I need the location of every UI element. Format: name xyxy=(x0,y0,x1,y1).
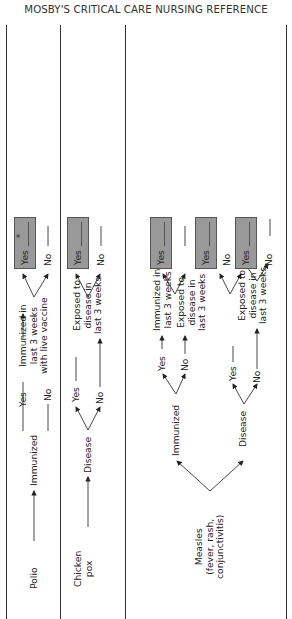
no-label: No xyxy=(95,392,106,405)
branch-label: Immunized xyxy=(29,435,40,486)
no-label: No xyxy=(252,371,263,384)
yes-label: Yes xyxy=(157,356,168,371)
no-label: No xyxy=(222,254,233,267)
disease-label-polio: Polio xyxy=(29,567,40,589)
shaded-answer-box: Yes * xyxy=(14,217,36,269)
disease-label-chicken-pox: Chicken pox xyxy=(73,551,94,587)
question-line: Immunized in xyxy=(152,269,163,331)
yes-label: Yes xyxy=(18,392,29,407)
question-line: last 3 weeks xyxy=(163,269,174,331)
shaded-answer-box: Yes xyxy=(67,217,89,269)
shaded-answer-box: Yes xyxy=(150,217,172,269)
question-line: last 3 weeks xyxy=(258,267,269,324)
branch-label: Disease xyxy=(83,437,94,473)
question-line: Immunized in xyxy=(18,297,29,374)
question-line: last 3 weeks xyxy=(93,277,104,334)
asterisk-mark: * xyxy=(16,234,27,238)
yes-label: Yes xyxy=(201,250,212,265)
question-line: Exposed to xyxy=(237,267,248,324)
question-line: Exposed to xyxy=(176,274,187,331)
question-text: Exposed to disease in last 3 weeks xyxy=(176,274,208,331)
question-line: last 3 weeks xyxy=(197,274,208,331)
no-label: No xyxy=(43,254,54,267)
disease-label-measles: Measles (fever, rash, conjunctivitis) xyxy=(194,515,226,579)
question-text: Exposed to disease in last 3 weeks xyxy=(72,277,104,334)
yes-label: Yes xyxy=(20,250,31,265)
disease-line: conjunctivitis) xyxy=(215,515,226,579)
branch-label: Immunized xyxy=(171,405,182,456)
shaded-answer-box: Yes xyxy=(235,217,257,269)
yes-label: Yes xyxy=(71,387,82,402)
question-text: Immunized in last 3 weeks xyxy=(152,269,173,331)
page-header: MOSBY'S CRITICAL CARE NURSING REFERENCE xyxy=(0,4,292,15)
no-label: No xyxy=(96,254,107,267)
question-text: Exposed to disease in last 3 weeks xyxy=(237,267,269,324)
disease-line: Measles xyxy=(194,515,205,579)
yes-label: Yes xyxy=(73,250,84,265)
disease-line: Chicken xyxy=(73,551,84,587)
question-line: Exposed to xyxy=(72,277,83,334)
question-text: Immunized in last 3 weeks with live vacc… xyxy=(18,297,50,374)
no-label: No xyxy=(43,389,54,402)
question-line: with live vaccine xyxy=(39,297,50,374)
shaded-answer-box: Yes xyxy=(195,217,217,269)
no-label: No xyxy=(264,254,275,267)
yes-label: Yes xyxy=(241,250,252,265)
rotated-table: Polio Immunized Yes No Immunized in last… xyxy=(0,25,292,619)
no-label: No xyxy=(180,359,191,372)
yes-label: Yes xyxy=(156,250,167,265)
disease-line: pox xyxy=(84,551,95,587)
yes-label: Yes xyxy=(228,366,239,381)
branch-label: Disease xyxy=(238,411,249,447)
